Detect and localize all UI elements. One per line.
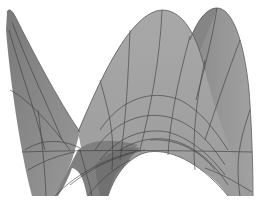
surface-render <box>0 0 259 210</box>
surface-figure <box>0 0 259 210</box>
